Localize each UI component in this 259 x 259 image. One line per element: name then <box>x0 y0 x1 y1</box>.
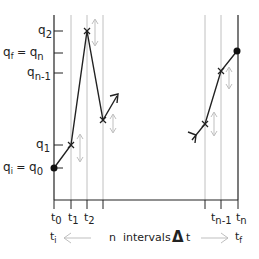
t-axis-ticks <box>54 200 238 209</box>
fluct-arrow-qn-2 <box>211 112 217 136</box>
fluct-arrow-q2 <box>92 19 98 46</box>
label-q2: q2 <box>38 23 52 40</box>
label-tn-1: tn-1 <box>211 211 232 226</box>
delta-t-symbol: t <box>186 231 191 244</box>
label-qf-eq-qn: qf = qn <box>3 45 44 62</box>
label-q1: q1 <box>36 137 50 154</box>
fluct-arrow-q3 <box>110 114 116 133</box>
delta-symbol: Δ <box>172 228 184 246</box>
label-t0: t0 <box>51 211 62 226</box>
path-segment-left <box>54 31 117 168</box>
end-point <box>234 48 241 55</box>
fluctuation-arrows <box>77 19 232 162</box>
left-arrow <box>64 233 91 243</box>
label-t1: t1 <box>68 211 79 226</box>
intervals-label: n intervals <box>109 231 171 244</box>
label-qn-1: qn-1 <box>27 65 51 82</box>
label-tf: tf <box>235 230 242 245</box>
start-point <box>51 165 58 172</box>
label-t2: t2 <box>84 211 95 226</box>
label-qi-eq-q0: qi = q0 <box>3 160 43 177</box>
fluct-arrow-q1 <box>77 134 83 162</box>
path-integral-diagram: q2 qf = qn qn-1 q1 qi = q0 t0 t1 t2 tn-1… <box>0 0 259 259</box>
path-segment-right <box>192 51 237 140</box>
fluct-arrow-qn-1 <box>226 67 232 89</box>
label-tn: tn <box>236 211 247 226</box>
right-arrow <box>201 233 228 243</box>
label-ti: ti <box>50 230 57 245</box>
q-axis-ticks <box>54 31 63 168</box>
